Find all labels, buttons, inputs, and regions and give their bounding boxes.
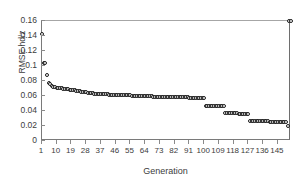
plot-area [41,20,290,140]
x-tick-label: 136 [255,146,268,156]
data-point [246,112,250,116]
x-tick-mark [247,140,248,144]
data-point [202,96,206,100]
x-tick-label: 145 [270,146,283,156]
x-tick-label: 118 [226,146,239,156]
data-point [222,104,226,108]
y-tick-label: 0.1 [25,61,37,70]
x-tick-label: 28 [81,146,90,156]
data-point [45,73,49,77]
x-tick-mark [56,140,57,144]
y-tick-mark [41,95,45,96]
x-tick-label: 64 [140,146,149,156]
x-tick-label: 127 [241,146,254,156]
data-point [289,19,293,23]
x-tick-mark [218,140,219,144]
y-tick-mark [41,125,45,126]
data-point [286,124,290,128]
x-tick-label: 100 [196,146,209,156]
x-tick-mark [159,140,160,144]
x-tick-label: 82 [169,146,178,156]
x-tick-mark [188,140,189,144]
y-tick-mark [41,50,45,51]
y-tick-label: 0.16 [20,16,37,25]
x-tick-mark [144,140,145,144]
y-tick-label: 0.12 [20,46,37,55]
x-tick-label: 19 [66,146,75,156]
y-tick-mark [41,65,45,66]
y-tick-label: 0.06 [20,91,37,100]
y-tick-label: 0.04 [20,106,37,115]
x-tick-mark [115,140,116,144]
x-tick-mark [262,140,263,144]
y-tick-mark [41,35,45,36]
x-tick-label: 73 [154,146,163,156]
x-tick-mark [277,140,278,144]
y-tick-label: 0 [32,136,37,145]
y-axis-tick-labels: 00.020.040.060.080.10.120.140.16 [0,20,37,140]
x-tick-mark [129,140,130,144]
x-tick-mark [233,140,234,144]
x-axis-tick-labels: 110192837465564738291100109118127136145 [0,146,300,158]
x-tick-mark [70,140,71,144]
x-tick-mark [85,140,86,144]
x-tick-mark [174,140,175,144]
x-tick-label: 91 [184,146,193,156]
y-tick-label: 0.02 [20,121,37,130]
rmse-generation-chart: RMSE hd/z 00.020.040.060.080.10.120.140.… [0,0,300,188]
x-tick-label: 37 [96,146,105,156]
x-tick-label: 55 [125,146,134,156]
x-tick-label: 46 [110,146,119,156]
x-tick-mark [100,140,101,144]
x-axis-title: Generation [41,166,290,176]
x-tick-label: 10 [51,146,60,156]
y-tick-mark [41,20,45,21]
x-tick-mark [41,140,42,144]
x-tick-label: 1 [39,146,43,156]
x-tick-label: 109 [211,146,224,156]
y-tick-mark [41,80,45,81]
data-series-rmse [42,21,289,139]
y-tick-label: 0.14 [20,31,37,40]
y-tick-label: 0.08 [20,76,37,85]
y-tick-mark [41,110,45,111]
x-tick-mark [203,140,204,144]
